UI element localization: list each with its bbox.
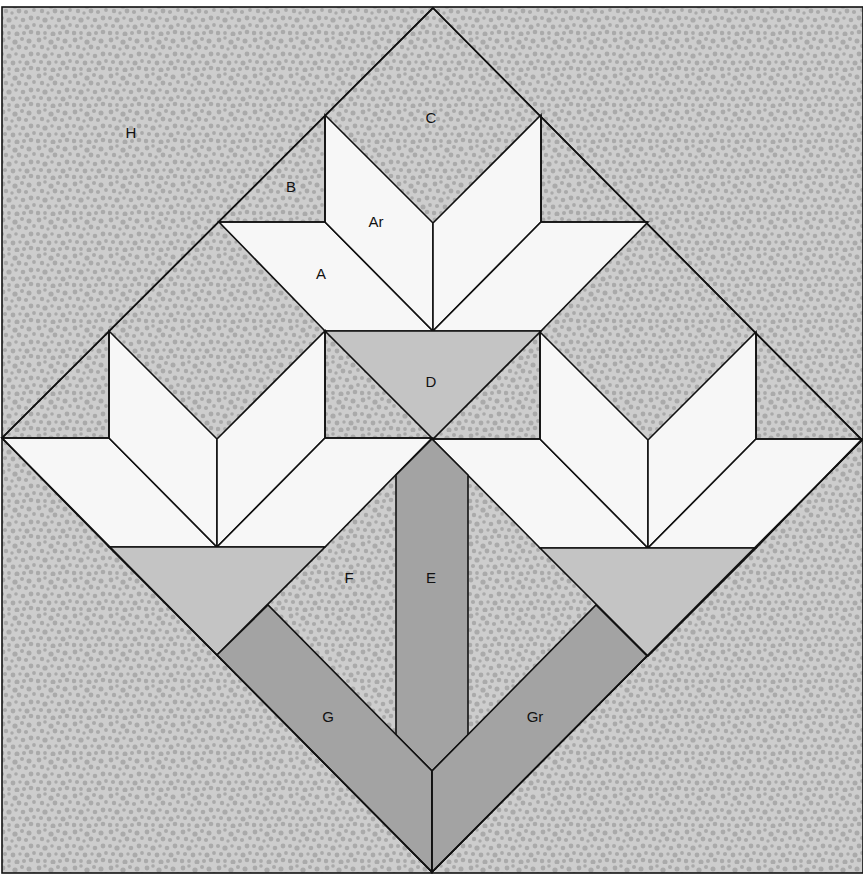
label-h: H [126, 124, 137, 141]
label-e: E [426, 569, 436, 586]
label-f: F [344, 569, 353, 586]
label-b: B [286, 178, 296, 195]
label-c: C [426, 109, 437, 126]
label-d: D [426, 373, 437, 390]
quilt-block-svg: H C B Ar A D F E G Gr [0, 0, 863, 876]
stem-e [396, 439, 468, 771]
label-a: A [316, 265, 326, 282]
label-g: G [322, 708, 334, 725]
quilt-block-diagram: H C B Ar A D F E G Gr [0, 0, 863, 876]
label-ar: Ar [369, 213, 384, 230]
label-gr: Gr [527, 708, 544, 725]
